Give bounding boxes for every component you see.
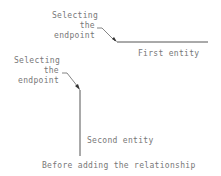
diagram-canvas: Selecting the endpoint First entity Sele…: [0, 0, 221, 176]
first-entity-label: First entity: [138, 49, 199, 58]
top-arrowhead-icon: [112, 37, 117, 42]
bottom-callout-line-1: Selecting: [14, 56, 58, 65]
top-callout-line-3: endpoint: [52, 31, 95, 40]
caption: Before adding the relationship: [42, 161, 196, 170]
diagram-lines: [0, 0, 221, 176]
second-entity-label: Second entity: [87, 136, 154, 145]
bottom-callout-line-3: endpoint: [14, 76, 59, 85]
bottom-arrowhead-icon: [75, 84, 80, 90]
bottom-leader-line: [62, 73, 78, 87]
bottom-callout-line-2: the: [14, 66, 59, 75]
top-callout-line-1: Selecting: [52, 11, 96, 20]
top-callout-line-2: the: [52, 21, 95, 30]
